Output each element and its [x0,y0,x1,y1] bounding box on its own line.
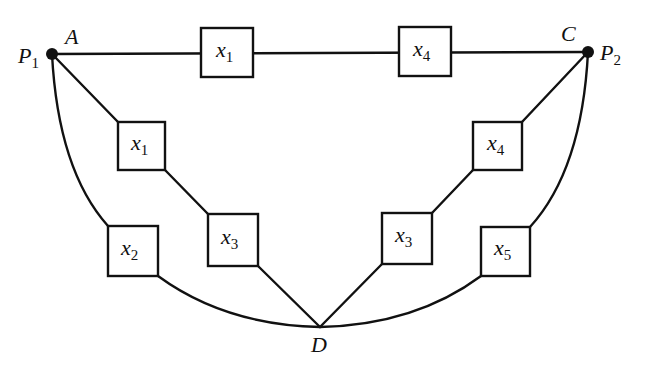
label-p2: P2 [599,40,621,68]
box-right-diag-x4: x4 [473,122,522,170]
edge-right-x3-to-d [320,264,382,327]
box-top-x4: x4 [399,27,451,76]
box-left-arc-x2: x2 [108,226,158,276]
box-left-diag-x3: x3 [208,214,258,266]
edge-top [52,52,588,54]
edges [52,52,588,327]
box-left-diag-x1: x1 [118,122,165,170]
edge-c-to-x5-arc [530,52,588,227]
box-right-diag-x3: x3 [382,213,432,264]
box-top-x1: x1 [201,28,253,77]
box-right-arc-x5: x5 [481,227,530,276]
node-c-dot [582,46,594,58]
node-a-dot [46,48,58,60]
edge-c-to-right-x4 [522,52,588,122]
edge-left-x3-to-d [258,266,320,327]
label-d: D [310,332,327,357]
edge-a-to-left-x1 [52,54,118,122]
edge-a-to-x2-arc [52,54,108,226]
edge-left-x1-to-x3 [165,170,208,214]
edge-right-x4-to-x3 [432,170,473,213]
reliability-network-diagram: x1 x4 x1 x3 x2 x4 x3 x5 A P1 C P2 D [0,0,645,381]
label-a: A [63,24,79,49]
label-c: C [561,21,576,46]
label-p1: P1 [17,43,39,71]
